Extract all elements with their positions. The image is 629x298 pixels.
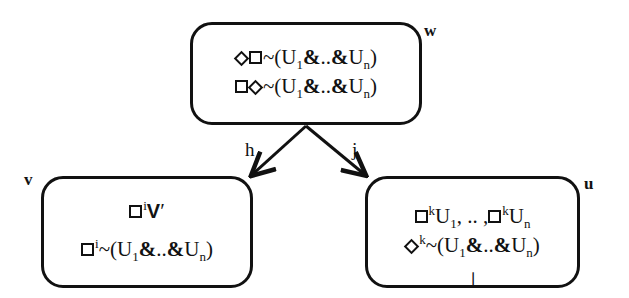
diamond-icon xyxy=(234,50,250,66)
node-w[interactable]: ~(U1&..&Un) ~(U1&..&Un) xyxy=(190,22,422,125)
node-u[interactable]: kU1, .. ,kUn k~(U1&..&Un) ⊥ xyxy=(365,176,580,288)
tilde-token: ~ xyxy=(426,233,437,257)
u-token-2: U xyxy=(509,204,524,228)
edge-label-j: j xyxy=(352,140,357,159)
lparen-token: ( xyxy=(437,233,444,257)
box-icon-2 xyxy=(488,210,501,223)
node-v-formula-1: iV′ xyxy=(129,199,165,224)
subscript-n: n xyxy=(524,216,531,231)
u-token-2: U xyxy=(348,74,363,98)
tilde-token: ~ xyxy=(263,74,274,98)
ellipsis-token: .. xyxy=(320,74,331,98)
box-icon xyxy=(129,205,142,218)
u-token: U xyxy=(117,237,132,261)
world-label-u: u xyxy=(584,175,593,192)
world-label-w: w xyxy=(424,22,436,39)
node-u-formula-1: kU1, .. ,kUn xyxy=(415,204,531,232)
node-v[interactable]: iV′ i~(U1&..&Un) xyxy=(41,176,253,288)
ellipsis-token: .. xyxy=(156,237,167,261)
comma-ellipsis-token: , .. , xyxy=(457,204,489,228)
edge-label-h: h xyxy=(245,140,255,159)
tilde-token: ~ xyxy=(263,45,274,69)
ellipsis-token: .. xyxy=(483,233,494,257)
node-v-formula-2: i~(U1&..&Un) xyxy=(81,237,213,265)
u-token-2: U xyxy=(348,45,363,69)
world-label-v: v xyxy=(24,171,33,188)
u-token: U xyxy=(435,204,450,228)
box-icon xyxy=(415,210,428,223)
falsum-icon: ⊥ xyxy=(368,270,577,291)
amp-token: & xyxy=(139,237,157,261)
amp-token: & xyxy=(303,45,321,69)
edge-h-line xyxy=(253,126,306,174)
amp-token: & xyxy=(466,233,484,257)
prime-token: ′ xyxy=(160,199,165,223)
box-icon xyxy=(81,243,94,256)
amp-token: & xyxy=(303,74,321,98)
amp-token-2: & xyxy=(167,237,185,261)
rparen-token: ) xyxy=(533,233,540,257)
node-w-formula-2: ~(U1&..&Un) xyxy=(235,75,377,102)
node-u-formula-2: k~(U1&..&Un) xyxy=(405,233,540,261)
u-token: U xyxy=(444,233,459,257)
rparen-token: ) xyxy=(206,237,213,261)
diagram-canvas: ~(U1&..&Un) ~(U1&..&Un) w iV′ i~(U1&..&U… xyxy=(0,0,629,298)
u-token: U xyxy=(281,74,296,98)
ellipsis-token: .. xyxy=(320,45,331,69)
u-token: U xyxy=(281,45,296,69)
tilde-token: ~ xyxy=(99,237,110,261)
amp-token-2: & xyxy=(494,233,512,257)
diamond-icon xyxy=(248,79,264,95)
node-w-formula-1: ~(U1&..&Un) xyxy=(235,46,377,73)
v-token: V xyxy=(147,200,160,222)
rparen-token: ) xyxy=(370,45,377,69)
amp-token-2: & xyxy=(331,74,349,98)
u-token-2: U xyxy=(184,237,199,261)
u-token-2: U xyxy=(511,233,526,257)
box-icon xyxy=(249,51,262,64)
amp-token-2: & xyxy=(331,45,349,69)
diamond-icon xyxy=(404,238,420,254)
rparen-token: ) xyxy=(370,74,377,98)
box-icon xyxy=(235,80,248,93)
